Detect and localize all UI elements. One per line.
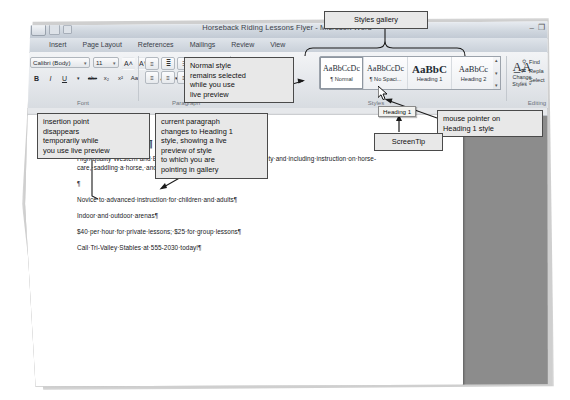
callout-screentip-text: ScreenTip xyxy=(392,137,425,146)
callout-normal-style: Normal styleremains selectedwhile you us… xyxy=(184,57,294,103)
callout-current-paragraph: current paragraphchanges to Heading 1sty… xyxy=(155,113,268,179)
callout-styles-gallery-text: Styles gallery xyxy=(354,15,398,24)
callout-insertion-point-text: insertion pointdisappearstemporarily whi… xyxy=(43,117,110,155)
callout-mouse-pointer-text: mouse pointer onHeading 1 style xyxy=(443,114,500,133)
callout-normal-style-text: Normal styleremains selectedwhile you us… xyxy=(190,61,246,99)
screentip-tooltip-text: Heading 1 xyxy=(383,108,411,115)
screentip-tooltip: Heading 1 xyxy=(378,106,416,117)
callout-screentip: ScreenTip xyxy=(374,133,443,151)
callout-mouse-pointer: mouse pointer onHeading 1 style xyxy=(437,110,543,137)
callout-styles-gallery: Styles gallery xyxy=(324,11,428,29)
callout-insertion-point: insertion pointdisappearstemporarily whi… xyxy=(37,113,150,159)
mouse-pointer-icon xyxy=(378,86,390,106)
callout-current-paragraph-text: current paragraphchanges to Heading 1sty… xyxy=(161,117,233,174)
